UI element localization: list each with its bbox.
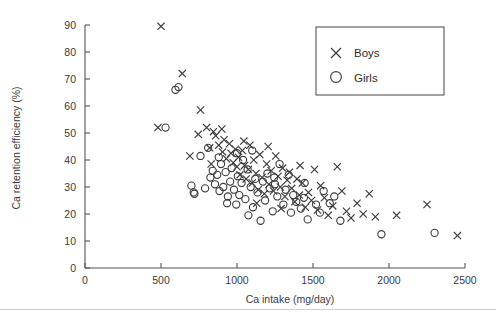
data-point-boys: [338, 187, 345, 194]
data-point-girls: [331, 193, 338, 200]
data-point-girls: [304, 216, 311, 223]
x-tick-label: 2500: [453, 274, 477, 286]
data-point-boys: [281, 193, 288, 200]
data-point-girls: [224, 193, 231, 200]
data-point-boys: [311, 166, 318, 173]
data-point-boys: [366, 190, 373, 197]
data-point-girls: [249, 204, 256, 211]
legend-label-boys: Boys: [354, 47, 380, 59]
data-point-boys: [372, 213, 379, 220]
y-tick-label: 20: [64, 208, 76, 220]
data-point-girls: [245, 212, 252, 219]
data-point-girls: [337, 217, 344, 224]
data-point-girls: [201, 185, 208, 192]
data-point-boys: [240, 138, 247, 145]
data-point-girls: [209, 167, 216, 174]
data-point-boys: [208, 160, 215, 167]
y-axis-title: Ca retention efficiency (%): [10, 87, 22, 210]
data-point-boys: [423, 201, 430, 208]
data-point-boys: [347, 214, 354, 221]
data-point-boys: [232, 146, 239, 153]
data-point-boys: [265, 143, 272, 150]
data-point-girls: [214, 171, 221, 178]
data-point-boys: [454, 232, 461, 239]
data-point-boys: [197, 106, 204, 113]
y-tick-label: 70: [64, 73, 76, 85]
data-point-girls: [234, 173, 241, 180]
data-point-girls: [312, 201, 319, 208]
data-point-girls: [252, 175, 259, 182]
data-point-girls: [276, 160, 283, 167]
data-point-boys: [243, 175, 250, 182]
data-point-boys: [263, 160, 270, 167]
x-tick-label: 1000: [225, 274, 249, 286]
data-point-boys: [393, 212, 400, 219]
data-point-girls: [269, 208, 276, 215]
data-point-boys: [308, 197, 315, 204]
data-point-girls: [215, 154, 222, 161]
data-point-girls: [233, 201, 240, 208]
data-point-girls: [227, 178, 234, 185]
data-point-girls: [293, 198, 300, 205]
data-point-boys: [293, 175, 300, 182]
data-point-girls: [262, 197, 269, 204]
data-point-girls: [197, 152, 204, 159]
data-point-girls: [228, 165, 235, 172]
data-point-girls: [257, 217, 264, 224]
y-tick-label: 60: [64, 100, 76, 112]
y-tick-label: 80: [64, 46, 76, 58]
x-tick-label: 500: [152, 274, 170, 286]
y-tick-label: 10: [64, 235, 76, 247]
data-point-boys: [157, 23, 164, 30]
data-point-boys: [203, 124, 210, 131]
x-tick-label: 1500: [301, 274, 325, 286]
data-point-girls: [162, 124, 169, 131]
data-point-girls: [238, 179, 245, 186]
data-point-boys: [325, 212, 332, 219]
data-point-boys: [317, 182, 324, 189]
data-point-girls: [188, 182, 195, 189]
bottom-divider: [0, 309, 496, 310]
data-point-girls: [205, 144, 212, 151]
data-point-boys: [296, 162, 303, 169]
scatter-plot-figure: 050010001500200025000102030405060708090 …: [0, 0, 496, 322]
data-point-girls: [207, 174, 214, 181]
data-point-boys: [360, 210, 367, 217]
legend-label-girls: Girls: [354, 72, 378, 84]
plot-canvas: 050010001500200025000102030405060708090 …: [0, 0, 496, 322]
data-point-boys: [179, 70, 186, 77]
data-point-boys: [186, 152, 193, 159]
y-tick-label: 50: [64, 127, 76, 139]
data-point-boys: [256, 151, 263, 158]
legend: Boys Girls: [316, 27, 444, 95]
x-tick-label: 2000: [377, 274, 401, 286]
y-tick-label: 40: [64, 154, 76, 166]
data-point-girls: [242, 196, 249, 203]
data-point-girls: [287, 209, 294, 216]
data-point-boys: [302, 204, 309, 211]
data-point-girls: [217, 160, 224, 167]
data-point-girls: [264, 170, 271, 177]
data-point-girls: [378, 231, 385, 238]
y-tick-label: 90: [64, 19, 76, 31]
data-point-boys: [195, 131, 202, 138]
data-point-boys: [220, 136, 227, 143]
data-point-boys: [334, 163, 341, 170]
data-point-girls: [274, 193, 281, 200]
data-point-boys: [343, 208, 350, 215]
x-tick-label: 0: [82, 274, 88, 286]
data-point-girls: [211, 181, 218, 188]
data-point-boys: [353, 200, 360, 207]
data-point-boys: [272, 152, 279, 159]
y-tick-label: 30: [64, 181, 76, 193]
data-point-boys: [218, 125, 225, 132]
data-point-girls: [290, 192, 297, 199]
data-point-girls: [224, 200, 231, 207]
data-point-girls: [431, 229, 438, 236]
data-point-boys: [154, 124, 161, 131]
y-tick-label: 0: [70, 262, 76, 274]
legend-box: [316, 27, 444, 95]
x-axis-title: Ca intake (mg/day): [246, 293, 335, 305]
